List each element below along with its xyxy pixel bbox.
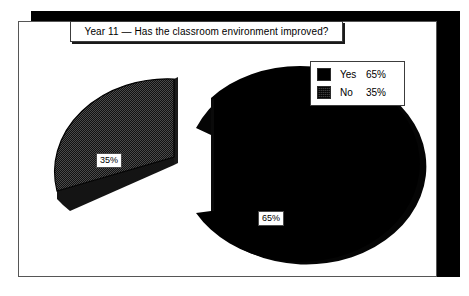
pie-slice-no[interactable] xyxy=(55,79,174,191)
pie-chart-svg xyxy=(18,21,437,277)
legend-item-no-value: 35% xyxy=(366,87,386,98)
no-slice-label: 35% xyxy=(96,153,122,168)
gray-hatch-swatch-icon xyxy=(317,86,331,99)
legend-item-yes[interactable]: Yes 65% xyxy=(317,67,398,82)
pie-chart-area: 35% 65% xyxy=(18,21,437,277)
legend-item-no-label: No xyxy=(340,87,366,98)
chart-title-box: Year 11 — Has the classroom environment … xyxy=(70,21,343,42)
chart-title-text: Year 11 — Has the classroom environment … xyxy=(85,26,329,37)
yes-slice-cut-face xyxy=(211,98,214,211)
legend-item-no[interactable]: No 35% xyxy=(317,85,398,100)
black-swatch-icon xyxy=(317,68,331,81)
legend-item-yes-label: Yes xyxy=(340,69,366,80)
yes-slice-label: 65% xyxy=(258,211,284,226)
legend-item-yes-value: 65% xyxy=(366,69,386,80)
chart-legend: Yes 65% No 35% xyxy=(310,61,405,106)
